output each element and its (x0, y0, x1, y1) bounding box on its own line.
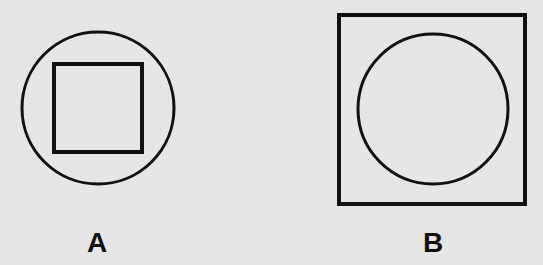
figure-b (339, 15, 525, 204)
figure-b-outer-square (339, 15, 525, 204)
figure-a-outer-circle (22, 32, 174, 184)
figure-a (22, 32, 174, 184)
figure-a-inner-square (54, 64, 142, 152)
figure-b-label: B (413, 229, 453, 257)
figure-b-inner-circle (358, 34, 508, 184)
figure-a-label: A (77, 229, 117, 257)
diagram-canvas (0, 0, 543, 265)
